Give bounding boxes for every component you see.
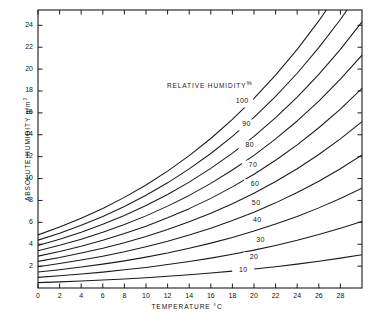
humidity-curve (38, 122, 362, 262)
x-tick-label: 28 (330, 292, 350, 299)
x-tick-label: 20 (244, 292, 264, 299)
plot-frame (38, 10, 362, 288)
curve-label-90: 90 (235, 120, 257, 127)
legend-title: RELATIVE HUMIDITY% (167, 80, 252, 89)
x-tick-label: 24 (287, 292, 307, 299)
humidity-curve (38, 155, 362, 267)
x-tick-label: 18 (222, 292, 242, 299)
legend-unit: % (246, 80, 251, 86)
x-tick-label: 26 (309, 292, 329, 299)
curve-label-70: 70 (242, 161, 264, 168)
x-tick-label: 12 (158, 292, 178, 299)
x-tick-label: 2 (50, 292, 70, 299)
humidity-curve (38, 22, 362, 246)
y-tick-label: 2 (14, 262, 33, 269)
curve-label-50: 50 (245, 199, 267, 206)
x-tick-label: 16 (201, 292, 221, 299)
humidity-curve (38, 0, 362, 235)
x-tick-label: 14 (179, 292, 199, 299)
curve-label-100: 100 (231, 97, 253, 104)
x-tick-label: 6 (93, 292, 113, 299)
humidity-curve (38, 88, 362, 256)
y-tick-label: 24 (14, 21, 33, 28)
humidity-curves (38, 0, 362, 283)
x-axis-title: TEMPERATURE °C (0, 303, 374, 310)
x-tick-label: 4 (71, 292, 91, 299)
curve-label-80: 80 (239, 141, 261, 148)
x-tick-label: 10 (136, 292, 156, 299)
x-tick-label: 8 (114, 292, 134, 299)
y-axis-title-exponent: 3 (23, 97, 28, 100)
x-tick-label: 0 (28, 292, 48, 299)
curve-label-30: 30 (249, 236, 271, 243)
y-axis-title-text: ABSOLUTE HUMIDITY g/m (24, 101, 31, 201)
x-axis-title-text: TEMPERATURE °C (151, 303, 222, 310)
curve-label-60: 60 (244, 180, 266, 187)
humidity-curve (38, 0, 362, 240)
x-tick-label: 22 (266, 292, 286, 299)
curve-label-20: 20 (243, 253, 265, 260)
chart-plot-area (0, 0, 374, 322)
curve-label-10: 10 (232, 266, 254, 273)
axis-ticks (38, 10, 362, 288)
humidity-chart-figure: 0246810121416182022242628246810121416182… (0, 0, 374, 322)
curve-label-40: 40 (246, 216, 268, 223)
y-axis-title: ABSOLUTE HUMIDITY g/m3 (16, 39, 34, 259)
legend-title-text: RELATIVE HUMIDITY (167, 82, 246, 89)
y-axis-title-inner: ABSOLUTE HUMIDITY g/m3 (24, 97, 31, 201)
